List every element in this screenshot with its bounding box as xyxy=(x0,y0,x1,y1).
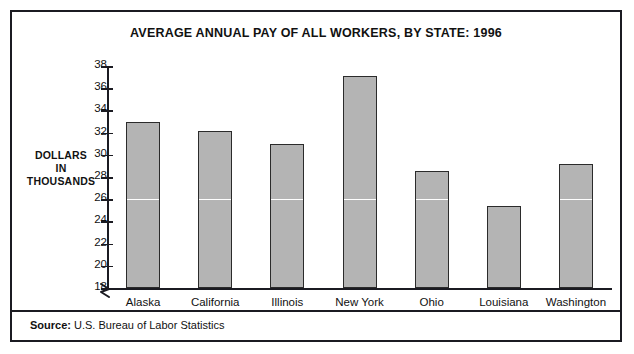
y-tick: 34 xyxy=(63,110,119,111)
bar-gridline xyxy=(199,199,231,201)
x-axis-label: California xyxy=(179,296,251,308)
y-tick-label: 32 xyxy=(73,125,107,137)
y-tick: 36 xyxy=(63,88,119,89)
y-tick-mark xyxy=(101,88,113,90)
y-tick-mark xyxy=(101,244,113,246)
y-tick: 20 xyxy=(63,266,119,267)
y-tick-label: 26 xyxy=(73,191,107,203)
y-tick: 28 xyxy=(63,177,119,178)
y-tick-label: 36 xyxy=(73,80,107,92)
bar-gridline xyxy=(416,199,448,201)
source-text: U.S. Bureau of Labor Statistics xyxy=(74,319,224,331)
x-axis-label: Louisiana xyxy=(468,296,540,308)
chart-title: AVERAGE ANNUAL PAY OF ALL WORKERS, BY ST… xyxy=(12,26,620,40)
y-tick-mark xyxy=(101,110,113,112)
y-tick: 24 xyxy=(63,221,119,222)
chart-figure: AVERAGE ANNUAL PAY OF ALL WORKERS, BY ST… xyxy=(10,10,622,342)
bar xyxy=(198,131,232,288)
x-axis-label: Ohio xyxy=(396,296,468,308)
y-tick-mark xyxy=(101,177,113,179)
bar xyxy=(487,206,521,288)
y-tick-mark xyxy=(101,133,113,135)
y-tick-label: 30 xyxy=(73,147,107,159)
axis-break-icon xyxy=(98,278,120,300)
y-tick: 30 xyxy=(63,155,119,156)
bar xyxy=(270,144,304,288)
y-tick-label: 28 xyxy=(73,169,107,181)
y-tick-mark xyxy=(101,199,113,201)
bar-gridline xyxy=(271,199,303,201)
y-tick-mark xyxy=(101,66,113,68)
y-tick: 38 xyxy=(63,66,119,67)
x-axis-line xyxy=(107,288,612,290)
bar xyxy=(343,76,377,288)
y-tick-mark xyxy=(101,266,113,268)
y-tick-label: 38 xyxy=(73,58,107,70)
bar xyxy=(126,122,160,289)
x-axis-label: Washington xyxy=(540,296,612,308)
bar xyxy=(559,164,593,288)
y-tick: 32 xyxy=(63,133,119,134)
y-tick-label: 22 xyxy=(73,236,107,248)
y-tick-mark xyxy=(101,155,113,157)
x-axis-label: New York xyxy=(323,296,395,308)
bar-gridline xyxy=(560,199,592,201)
plot-area: 3836343230282624222018 AlaskaCaliforniaI… xyxy=(107,56,612,299)
footer-divider xyxy=(12,310,620,312)
y-tick-label: 20 xyxy=(73,258,107,270)
y-tick: 22 xyxy=(63,244,119,245)
y-tick-label: 34 xyxy=(73,102,107,114)
bar-gridline xyxy=(127,199,159,201)
bar xyxy=(415,171,449,288)
y-tick: 26 xyxy=(63,199,119,200)
y-tick-label: 24 xyxy=(73,213,107,225)
source-note: Source: U.S. Bureau of Labor Statistics xyxy=(30,319,224,331)
y-tick-mark xyxy=(101,221,113,223)
source-label: Source: xyxy=(30,319,71,331)
x-axis-label: Illinois xyxy=(251,296,323,308)
bar-gridline xyxy=(344,199,376,201)
